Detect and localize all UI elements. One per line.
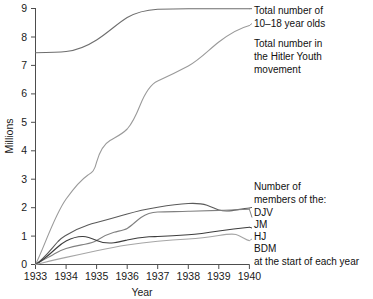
leader-line-jm — [249, 209, 252, 217]
annotation-jm: JM — [254, 219, 267, 230]
x-tick-label: 1937 — [146, 270, 170, 282]
series-line-hitler-youth — [36, 26, 250, 265]
annotation-line: Total number in — [254, 38, 322, 49]
annotation-members-header: Number of members of the: — [254, 181, 326, 205]
annotation-hitler-youth: Total number in the Hitler Youth movemen… — [254, 38, 322, 75]
annotation-footnote: at the start of each year — [254, 256, 360, 267]
y-tick-label: 8 — [21, 31, 27, 43]
annotation-line: members of the: — [254, 194, 326, 205]
x-tick-labels: 1933 1934 1935 1936 1937 1938 1939 1940 — [24, 270, 261, 282]
annotation-total-youth: Total number of 10–18 year olds — [254, 5, 325, 29]
series-line-djv — [36, 203, 250, 264]
annotation-bdm: BDM — [254, 243, 276, 254]
annotation-line: Number of — [254, 181, 301, 192]
y-tick-label: 0 — [21, 258, 27, 270]
annotation-line: movement — [254, 64, 301, 75]
annotation-hj: HJ — [254, 231, 266, 242]
annotations-group: Total number of 10–18 year olds Total nu… — [254, 5, 360, 267]
y-tick-label: 4 — [21, 144, 27, 156]
chart-container: 9 8 7 6 5 4 3 2 1 0 1933 1934 1935 1936 … — [0, 0, 373, 299]
y-tick-label: 6 — [21, 87, 27, 99]
x-tick-label: 1936 — [116, 270, 140, 282]
x-tick-label: 1938 — [177, 270, 201, 282]
y-tick-label: 5 — [21, 116, 27, 128]
line-chart: 9 8 7 6 5 4 3 2 1 0 1933 1934 1935 1936 … — [0, 0, 373, 299]
x-tick-label: 1940 — [238, 270, 262, 282]
leader-line-djv — [249, 207, 252, 208]
y-tick-label: 1 — [21, 230, 27, 242]
x-axis-title: Year — [131, 286, 153, 298]
axis-group: 9 8 7 6 5 4 3 2 1 0 1933 1934 1935 1936 … — [3, 2, 261, 298]
annotation-line: the Hitler Youth — [254, 51, 322, 62]
series-group — [36, 9, 250, 265]
y-tick-label: 7 — [21, 59, 27, 71]
leader-line-hitler-youth — [249, 24, 252, 26]
leader-lines-group — [249, 9, 252, 241]
series-line-bdm — [36, 234, 250, 264]
series-line-hj — [36, 227, 250, 264]
y-tick-label: 2 — [21, 201, 27, 213]
y-tick-labels: 9 8 7 6 5 4 3 2 1 0 — [21, 2, 27, 270]
leader-line-bdm — [249, 239, 252, 241]
annotation-djv: DJV — [254, 207, 273, 218]
y-tick-label: 9 — [21, 2, 27, 14]
annotation-line: Total number of — [254, 5, 323, 16]
y-tick-label: 3 — [21, 173, 27, 185]
annotation-line: 10–18 year olds — [254, 18, 325, 29]
leader-line-hj — [249, 227, 252, 228]
x-tick-label: 1933 — [24, 270, 48, 282]
x-tick-label: 1935 — [85, 270, 109, 282]
x-tick-label: 1934 — [54, 270, 78, 282]
y-tick-marks — [31, 9, 36, 265]
y-axis-title: Millions — [3, 118, 15, 153]
x-tick-label: 1939 — [207, 270, 231, 282]
series-line-total-youth — [36, 9, 250, 53]
x-tick-marks — [36, 265, 250, 270]
